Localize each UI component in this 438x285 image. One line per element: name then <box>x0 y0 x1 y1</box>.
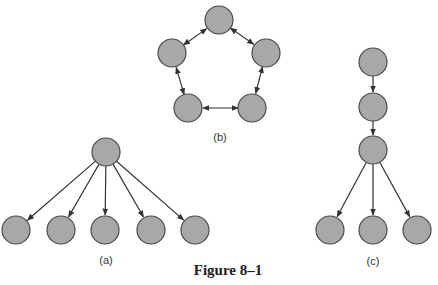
panel-c-node <box>359 48 387 76</box>
edge-arrow <box>230 28 253 44</box>
edge-arrow <box>337 162 366 216</box>
panel-a-node <box>2 216 30 244</box>
panel-a-node <box>92 138 120 166</box>
figure-canvas: (a) (b) (c) Figure 8–1 <box>0 0 438 285</box>
edge-arrow <box>176 67 184 94</box>
panel-b-node <box>252 39 280 67</box>
panel-c-node <box>359 216 387 244</box>
panel-a-node <box>91 216 119 244</box>
panel-c-node <box>359 136 387 164</box>
panel-a-label: (a) <box>99 254 112 266</box>
edge-arrow <box>27 161 95 220</box>
panel-c-node <box>359 93 387 121</box>
panel-b-node <box>238 94 266 122</box>
panel-a-node <box>47 216 75 244</box>
panel-a-node <box>181 216 209 244</box>
edge-arrow <box>256 67 263 94</box>
panel-c-node <box>316 216 344 244</box>
panel-b-node <box>158 39 186 67</box>
edge-arrow <box>117 161 184 220</box>
panel-b-node <box>205 6 233 34</box>
edge-arrow <box>105 166 106 215</box>
panel-b-node <box>174 94 202 122</box>
panel-a-node <box>137 216 165 244</box>
edge-arrow <box>183 29 206 45</box>
edge-arrow <box>380 162 410 217</box>
panel-b-label: (b) <box>213 131 226 143</box>
figure-caption: Figure 8–1 <box>194 262 262 279</box>
panel-c-node <box>403 216 431 244</box>
panel-c-label: (c) <box>367 255 380 267</box>
